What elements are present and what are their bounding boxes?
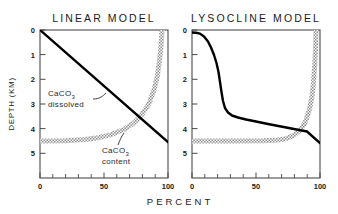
y-ticklabel-2: 2 (31, 75, 35, 84)
y-ticklabel-r1: 1 (183, 51, 187, 60)
anno-dissolved-line2: dissolved (48, 100, 84, 109)
y-ticklabel-r2: 2 (183, 75, 187, 84)
x-axis-title: PERCENT (147, 196, 213, 207)
panel-left-title: LINEAR MODEL (52, 12, 155, 24)
svg-text:CaCO3: CaCO3 (102, 146, 129, 157)
anno-content-subscript: 3 (125, 151, 129, 157)
panel-right-title: LYSOCLINE MODEL (191, 12, 321, 24)
x-ticklabel-r50: 50 (252, 182, 260, 191)
figure-container: LINEAR MODEL 0 1 2 3 4 5 (0, 0, 338, 214)
y-ticklabel-5: 5 (31, 149, 35, 158)
anno-dissolved-text: CaCO (48, 89, 71, 98)
anno-dissolved-subscript: 3 (71, 94, 75, 100)
y-axis-title: DEPTH (KM) (7, 77, 16, 131)
x-ticklabel-50: 50 (100, 182, 108, 191)
x-ticklabel-0: 0 (38, 182, 42, 191)
y-ticklabel-0: 0 (31, 26, 35, 35)
x-ticklabel-r100: 100 (314, 182, 327, 191)
x-ticklabel-100: 100 (162, 182, 175, 191)
y-ticklabel-r5: 5 (183, 149, 187, 158)
svg-text:CaCO3: CaCO3 (48, 89, 75, 100)
y-ticklabel-r3: 3 (183, 100, 187, 109)
x-ticklabel-r0: 0 (190, 182, 194, 191)
y-ticklabel-r0: 0 (183, 26, 187, 35)
y-ticklabel-1: 1 (31, 51, 35, 60)
anno-content-line2: content (102, 157, 131, 166)
y-ticklabel-3: 3 (31, 100, 35, 109)
anno-content-text: CaCO (102, 146, 125, 155)
